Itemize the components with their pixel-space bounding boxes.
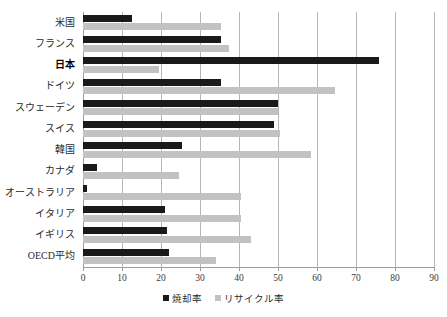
x-tick-50 (278, 267, 279, 271)
bar-row (83, 76, 434, 97)
x-tick-70 (356, 267, 357, 271)
bar-recycling (83, 257, 216, 264)
bar-row (83, 97, 434, 118)
category-axis-labels: 米国フランス日本ドイツスウェーデンスイス韓国カナダオーストラリアイタリアイギリス… (0, 12, 79, 267)
bar-incineration (83, 36, 221, 43)
bar-incineration (83, 164, 97, 171)
bar-row (83, 161, 434, 182)
category-label: イギリス (35, 229, 75, 240)
bar-incineration (83, 227, 167, 234)
x-tick-40 (239, 267, 240, 271)
x-tick-10 (122, 267, 123, 271)
bar-row (83, 118, 434, 139)
chart-legend: 焼却率リサイクル率 (0, 291, 447, 305)
x-tick-label: 50 (273, 273, 283, 283)
bar-recycling (83, 108, 278, 115)
x-tick-label: 80 (390, 273, 400, 283)
bar-incineration (83, 121, 274, 128)
category-label: 韓国 (55, 144, 75, 155)
x-tick-0 (83, 267, 84, 271)
bar-recycling (83, 23, 221, 30)
x-tick-label: 70 (351, 273, 361, 283)
gridline-90 (434, 12, 435, 267)
x-tick-label: 20 (156, 273, 166, 283)
bar-incineration (83, 249, 169, 256)
x-tick-90 (434, 267, 435, 271)
x-tick-label: 90 (429, 273, 439, 283)
bar-row (83, 182, 434, 203)
bar-row (83, 33, 434, 54)
bar-row (83, 12, 434, 33)
bar-recycling (83, 45, 229, 52)
bar-recycling (83, 87, 335, 94)
bar-incineration (83, 142, 182, 149)
x-tick-60 (317, 267, 318, 271)
bar-rows (83, 12, 434, 267)
bar-recycling (83, 172, 179, 179)
category-label: 日本 (55, 59, 75, 70)
bar-recycling (83, 151, 311, 158)
bar-row (83, 225, 434, 246)
bar-recycling (83, 236, 251, 243)
bar-incineration (83, 206, 165, 213)
bar-incineration (83, 79, 221, 86)
bar-incineration (83, 15, 132, 22)
x-tick-30 (200, 267, 201, 271)
x-tick-80 (395, 267, 396, 271)
legend-label: 焼却率 (172, 291, 202, 305)
legend-swatch-icon (163, 295, 169, 301)
category-label: ドイツ (45, 80, 75, 91)
bar-incineration (83, 185, 87, 192)
x-axis-line (83, 267, 435, 268)
x-tick-label: 40 (234, 273, 244, 283)
bar-row (83, 203, 434, 224)
bar-row (83, 55, 434, 76)
bar-recycling (83, 193, 241, 200)
category-label: スウェーデン (15, 102, 75, 113)
bar-recycling (83, 130, 280, 137)
plot-area (83, 12, 434, 267)
category-label: OECD平均 (28, 250, 75, 261)
x-tick-label: 0 (81, 273, 86, 283)
bar-row (83, 246, 434, 267)
legend-entry: リサイクル率 (215, 291, 284, 305)
bar-chart: 米国フランス日本ドイツスウェーデンスイス韓国カナダオーストラリアイタリアイギリス… (0, 0, 447, 317)
bar-recycling (83, 215, 241, 222)
category-label: カナダ (45, 165, 75, 176)
x-tick-label: 10 (117, 273, 127, 283)
bar-row (83, 140, 434, 161)
legend-entry: 焼却率 (163, 291, 202, 305)
category-label: オーストラリア (5, 187, 75, 198)
bar-recycling (83, 66, 159, 73)
category-label: スイス (45, 123, 75, 134)
bar-incineration (83, 100, 278, 107)
x-tick-20 (161, 267, 162, 271)
x-tick-label: 30 (195, 273, 205, 283)
category-label: フランス (35, 38, 75, 49)
x-tick-label: 60 (312, 273, 322, 283)
category-label: 米国 (55, 17, 75, 28)
category-label: イタリア (35, 208, 75, 219)
bar-incineration (83, 57, 379, 64)
legend-swatch-icon (215, 295, 221, 301)
legend-label: リサイクル率 (224, 291, 284, 305)
